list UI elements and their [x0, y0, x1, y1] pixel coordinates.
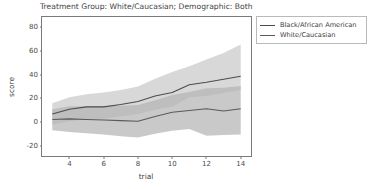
figure-canvas: Treatment Group: White/Caucasian; Demogr… [0, 0, 369, 189]
x-tick-label: 12 [202, 160, 211, 168]
y-tick-mark [40, 98, 43, 99]
x-tick-mark [103, 156, 104, 159]
x-tick-label: 10 [168, 160, 177, 168]
y-tick-mark [40, 26, 43, 27]
y-tick-label: 20 [29, 94, 38, 102]
legend-label-series-1: White/Caucasian [280, 31, 335, 39]
y-tick-label: 40 [29, 71, 38, 79]
legend-line-swatch-series-1 [260, 35, 275, 36]
x-tick-label: 4 [67, 160, 71, 168]
x-tick-label: 6 [101, 160, 105, 168]
y-tick-label: 60 [29, 47, 38, 55]
y-tick-mark [40, 146, 43, 147]
legend-item-white-caucasian[interactable]: White/Caucasian [260, 30, 362, 40]
y-tick-mark [40, 122, 43, 123]
y-tick-label: -20 [27, 142, 38, 150]
chart-title: Treatment Group: White/Caucasian; Demogr… [40, 2, 253, 11]
y-tick-label: 80 [29, 23, 38, 31]
y-tick-mark [40, 50, 43, 51]
x-tick-mark [69, 156, 70, 159]
x-tick-mark [206, 156, 207, 159]
y-tick-label: 0 [34, 118, 38, 126]
y-tick-mark [40, 74, 43, 75]
chart-legend[interactable]: Black/African American White/Caucasian [256, 16, 367, 44]
legend-line-swatch-series-0 [260, 25, 275, 26]
x-tick-mark [172, 156, 173, 159]
legend-label-series-0: Black/African American [280, 21, 357, 29]
x-tick-label: 14 [236, 160, 245, 168]
y-axis-label: score [7, 77, 16, 97]
x-tick-mark [240, 156, 241, 159]
plot-axes[interactable]: -20020406080468101214 [41, 16, 252, 157]
x-axis-label: trial [139, 172, 154, 181]
x-tick-label: 8 [136, 160, 140, 168]
plot-area [42, 17, 251, 156]
legend-item-black-african-american[interactable]: Black/African American [260, 20, 362, 30]
x-tick-mark [137, 156, 138, 159]
